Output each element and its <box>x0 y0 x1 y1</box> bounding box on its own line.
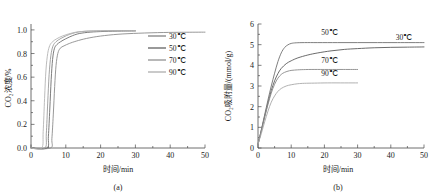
panel-a-caption: (a) <box>114 183 123 192</box>
y-axis-tick-label: 0.2 <box>17 120 27 129</box>
figure-container: 010203040500.00.20.40.60.81.0 30℃50℃70℃9… <box>0 0 435 194</box>
curve-label-70℃: 70℃ <box>321 56 338 65</box>
curve-30℃ <box>258 47 424 144</box>
panel-b-y-axis-title: CO₂吸附量/(mmol/g) <box>223 50 233 121</box>
panel-a-y-axis-title: CO₂浓度/% <box>3 68 13 107</box>
panel-a-legend: 30℃50℃70℃90℃ <box>148 32 186 77</box>
panel-b-svg: 010203040500123456 30℃50℃70℃90℃ CO₂吸附量/(… <box>218 0 435 194</box>
curve-label-50℃: 50℃ <box>321 28 338 37</box>
x-axis-tick-label: 20 <box>97 151 105 160</box>
y-axis-tick-label: 6 <box>250 20 254 29</box>
panel-a: 010203040500.00.20.40.60.81.0 30℃50℃70℃9… <box>0 0 217 194</box>
y-axis-tick-label: 4 <box>250 61 254 70</box>
y-axis-tick-label: 1.0 <box>17 26 27 35</box>
x-axis-tick-label: 0 <box>29 151 33 160</box>
x-axis-tick-label: 30 <box>354 151 362 160</box>
legend-label-90℃: 90℃ <box>169 68 186 77</box>
y-axis-tick-label: 1 <box>250 123 254 132</box>
panel-b-caption: (b) <box>333 183 343 192</box>
curve-50℃ <box>258 43 424 145</box>
y-axis-tick-label: 5 <box>250 41 254 50</box>
legend-label-70℃: 70℃ <box>169 56 186 65</box>
panel-b-curve-labels: 30℃50℃70℃90℃ <box>321 28 412 78</box>
panel-a-axes <box>31 24 205 148</box>
x-axis-tick-label: 50 <box>201 151 209 160</box>
y-axis-tick-label: 0 <box>250 144 254 153</box>
y-axis-tick-label: 0.4 <box>17 97 27 106</box>
x-axis-tick-label: 50 <box>420 151 428 160</box>
legend-label-50℃: 50℃ <box>169 44 186 53</box>
y-axis-tick-label: 2 <box>250 103 254 112</box>
panel-b-curves <box>258 43 424 145</box>
x-axis-tick-label: 40 <box>166 151 174 160</box>
panel-a-svg: 010203040500.00.20.40.60.81.0 30℃50℃70℃9… <box>0 0 217 194</box>
panel-b-x-axis-title: 时间/min <box>323 164 354 174</box>
y-axis-tick-label: 3 <box>250 82 254 91</box>
legend-label-30℃: 30℃ <box>169 32 186 41</box>
x-axis-tick-label: 10 <box>287 151 295 160</box>
y-axis-tick-label: 0.8 <box>17 50 27 59</box>
curve-90℃ <box>258 83 358 144</box>
curve-70℃ <box>31 31 135 149</box>
curve-label-90℃: 90℃ <box>321 69 338 78</box>
x-axis-tick-label: 30 <box>131 151 139 160</box>
panel-b: 010203040500123456 30℃50℃70℃90℃ CO₂吸附量/(… <box>218 0 435 194</box>
panel-a-x-axis-title: 时间/min <box>103 164 134 174</box>
curve-label-30℃: 30℃ <box>396 33 413 42</box>
y-axis-tick-label: 0.6 <box>17 73 27 82</box>
x-axis-tick-label: 40 <box>387 151 395 160</box>
y-axis-tick-label: 0.0 <box>17 144 27 153</box>
x-axis-tick-label: 0 <box>256 151 260 160</box>
x-axis-tick-label: 20 <box>320 151 328 160</box>
x-axis-tick-label: 10 <box>62 151 70 160</box>
